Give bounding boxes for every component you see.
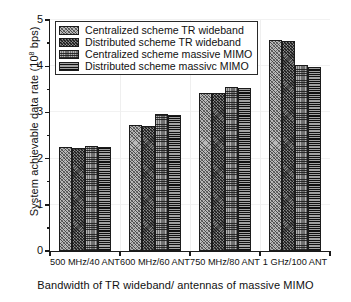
bar (225, 87, 238, 251)
y-tick-label: 2 (37, 152, 43, 165)
y-tick-mark (45, 112, 50, 113)
legend-swatch (59, 26, 79, 35)
y-tick-label: 3 (37, 105, 43, 118)
legend-item[interactable]: Centralized scheme massive MIMO (59, 48, 252, 60)
bar (155, 114, 168, 251)
bar (295, 65, 308, 251)
gridline-vertical (260, 20, 261, 251)
legend-item[interactable]: Distributed scheme TR wideband (59, 36, 252, 48)
bar (199, 93, 212, 251)
x-tick-mark (119, 251, 120, 256)
legend-label: Centralized scheme massive MIMO (85, 49, 252, 60)
x-tick-label: 750 MHz/80 ANT (190, 257, 260, 267)
bar (282, 41, 295, 251)
y-tick-label: 4 (37, 59, 43, 72)
y-tick-mark (45, 19, 50, 20)
y-tick-mark (45, 66, 50, 67)
legend-swatch (59, 50, 79, 59)
legend-label: Centralized scheme TR wideband (85, 25, 244, 36)
y-axis-title-main: System achievable data rate (10 (28, 55, 40, 216)
y-tick-mark (47, 89, 50, 90)
bar (85, 146, 98, 251)
y-tick-mark (47, 227, 50, 228)
bar (59, 147, 72, 251)
y-tick-mark (47, 181, 50, 182)
y-tick-mark (45, 204, 50, 205)
y-axis-title-tail: bps) (28, 26, 40, 51)
legend-swatch (59, 38, 79, 47)
x-tick-label: 600 MHz/60 ANT (120, 257, 190, 267)
y-axis-title-exponent: 8 (28, 51, 35, 55)
x-tick-label: 1 GHz/100 ANT (263, 257, 327, 267)
bar (98, 147, 111, 251)
y-tick-label: 5 (37, 13, 43, 26)
x-tick-mark (259, 251, 260, 256)
legend-swatch (59, 62, 79, 71)
bar (308, 67, 321, 251)
bar (129, 125, 142, 251)
x-tick-mark (189, 251, 190, 256)
bar (72, 148, 85, 251)
legend: Centralized scheme TR widebandDistribute… (55, 21, 258, 75)
legend-label: Distributed scheme TR wideband (85, 37, 241, 48)
bar-chart-figure: System achievable data rate (108 bps) Ba… (0, 0, 351, 302)
bar (212, 93, 225, 251)
x-axis-title: Bandwidth of TR wideband/ antennas of ma… (0, 279, 351, 291)
x-tick-mark (49, 251, 50, 256)
bar (168, 115, 181, 251)
legend-item[interactable]: Centralized scheme TR wideband (59, 24, 252, 36)
legend-label: Distributed scheme massivc MIMO (85, 61, 249, 72)
x-tick-mark (329, 251, 330, 256)
y-tick-mark (47, 135, 50, 136)
y-tick-label: 0 (37, 244, 43, 257)
y-tick-label: 1 (37, 198, 43, 211)
bar (269, 40, 282, 251)
bar (142, 126, 155, 251)
legend-item[interactable]: Distributed scheme massivc MIMO (59, 60, 252, 72)
x-tick-label: 500 MHz/40 ANT (50, 257, 120, 267)
bar (238, 88, 251, 251)
y-tick-mark (47, 42, 50, 43)
y-tick-mark (45, 158, 50, 159)
